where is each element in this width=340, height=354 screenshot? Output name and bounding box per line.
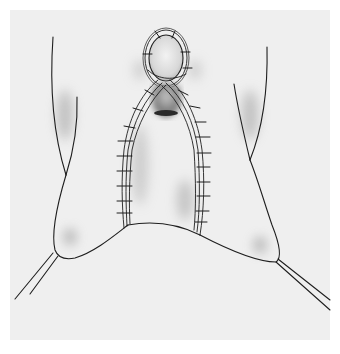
stoma	[143, 28, 189, 88]
surgical-illustration	[0, 0, 340, 354]
